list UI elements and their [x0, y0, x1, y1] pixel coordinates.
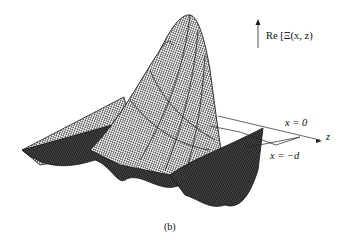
z-axis-label: z: [326, 131, 330, 142]
plane-label-xd: x = −d: [270, 150, 299, 161]
vertical-axis-label: Re [Ξ(x, z): [266, 30, 313, 41]
plane-label-x0: x = 0: [285, 117, 307, 128]
figure-caption: (b): [164, 221, 176, 232]
vertical-axis-arrow: [256, 19, 261, 25]
